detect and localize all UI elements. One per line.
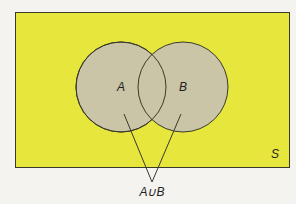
union-label: A∪B [138, 185, 164, 199]
universe-label: S [271, 147, 279, 161]
set-a-label: A [116, 80, 125, 94]
set-b-label: B [179, 80, 187, 94]
venn-diagram: A B S A∪B [0, 0, 296, 204]
